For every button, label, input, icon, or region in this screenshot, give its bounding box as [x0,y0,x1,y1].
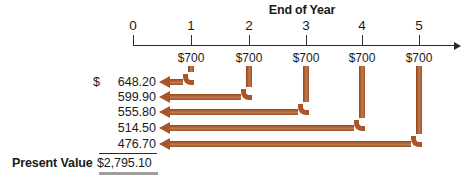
arrow-head-icon [159,122,170,134]
cash-flow-label-year-2: $700 [224,51,274,65]
arrow-vertical-segment [188,66,193,72]
arrow-corner [241,89,252,100]
cash-flow-label-year-1: $700 [166,51,216,65]
arrow-head-icon [159,91,170,103]
arrow-vertical-segment [359,66,364,118]
discounted-value-year-2: 599.90 [98,90,156,104]
year-label-3: 3 [291,18,321,33]
year-label-4: 4 [347,18,377,33]
arrow-vertical-segment [303,66,308,102]
total-rule-divider [99,153,157,154]
cash-flow-label-year-3: $700 [281,51,331,65]
arrow-corner [411,136,422,147]
arrow-horizontal-segment [168,79,183,84]
year-label-5: 5 [404,18,434,33]
arrow-vertical-segment [416,66,421,134]
arrow-head-icon [159,106,170,118]
arrow-head-icon [159,138,170,150]
cash-flow-label-year-5: $700 [394,51,444,65]
present-value-amount: $2,795.10 [97,156,152,170]
arrow-head-icon [159,76,170,88]
discounted-value-year-1: 648.20 [98,75,156,89]
timeline-axis-line [133,45,455,46]
arrow-horizontal-segment [168,141,411,146]
year-label-2: 2 [234,18,264,33]
year-label-0: 0 [118,18,148,33]
arrow-corner [298,104,309,115]
discounted-value-year-4: 514.50 [98,121,156,135]
total-underline-shadow [99,172,158,175]
axis-tick-1 [191,35,192,46]
arrow-corner [183,74,194,85]
cash-flow-label-year-4: $700 [337,51,387,65]
arrow-vertical-segment [246,66,251,87]
discounted-value-year-3: 555.80 [98,105,156,119]
arrow-horizontal-segment [168,125,354,130]
axis-tick-4 [362,35,363,46]
arrow-horizontal-segment [168,94,241,99]
axis-tick-0 [133,35,134,46]
axis-tick-5 [419,35,420,46]
arrow-corner [354,120,365,131]
present-value-timeline-diagram: End of Year 012345 $700$700$700$700$700 … [0,0,468,187]
present-value-label: Present Value [12,156,93,170]
discounted-value-year-5: 476.70 [98,137,156,151]
timeline-axis-arrowhead-icon [454,42,461,50]
axis-tick-2 [249,35,250,46]
year-label-1: 1 [176,18,206,33]
axis-tick-3 [306,35,307,46]
chart-title: End of Year [242,3,362,17]
arrow-horizontal-segment [168,109,298,114]
